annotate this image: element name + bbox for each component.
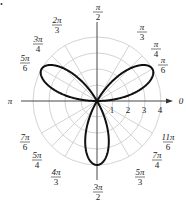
angle-label: 4π3 — [51, 167, 61, 187]
angle-label: π4 — [151, 39, 161, 59]
svg-text:3: 3 — [55, 25, 60, 35]
svg-text:4: 4 — [155, 160, 160, 170]
angle-label: 5π4 — [32, 150, 42, 170]
svg-text:3π: 3π — [32, 34, 43, 44]
svg-text:6: 6 — [161, 65, 166, 75]
svg-text:6: 6 — [23, 63, 28, 73]
svg-text:6: 6 — [23, 142, 28, 152]
radial-tick-label: 1 — [110, 105, 115, 115]
svg-text:0: 0 — [179, 96, 184, 106]
svg-text:4: 4 — [36, 44, 41, 54]
svg-text:3: 3 — [138, 177, 143, 187]
svg-text:3: 3 — [140, 32, 145, 42]
radial-tick-label: 2 — [126, 105, 131, 115]
angle-label: π3 — [137, 22, 147, 42]
svg-text:5π: 5π — [20, 53, 30, 63]
svg-text:2: 2 — [96, 12, 101, 22]
svg-text:π: π — [154, 39, 159, 49]
angle-label: 7π6 — [20, 132, 30, 152]
angle-label: π2 — [93, 2, 103, 22]
svg-text:π: π — [161, 55, 166, 65]
angle-label: 0 — [179, 96, 184, 106]
radial-tick-label: 4 — [158, 105, 163, 115]
svg-text:2π: 2π — [52, 15, 62, 25]
angle-label: 11π6 — [162, 132, 175, 152]
svg-text:3: 3 — [54, 177, 59, 187]
radial-tick-label: 3 — [142, 105, 147, 115]
angle-label: 3π2 — [92, 182, 103, 202]
svg-text:3π: 3π — [92, 182, 103, 192]
svg-text:11π: 11π — [162, 132, 175, 142]
svg-text:4: 4 — [154, 49, 159, 59]
svg-text:7π: 7π — [152, 150, 162, 160]
angle-label: 3π4 — [32, 34, 43, 54]
angle-label: π6 — [158, 55, 168, 75]
bullet-dot — [1, 3, 3, 5]
svg-text:7π: 7π — [20, 132, 30, 142]
svg-text:6: 6 — [166, 142, 171, 152]
polar-plot: 1234 0π6π4π3π22π33π45π6π7π65π44π33π25π37… — [0, 0, 186, 207]
svg-text:2: 2 — [96, 192, 101, 202]
svg-text:4: 4 — [35, 160, 40, 170]
svg-text:4π: 4π — [51, 167, 61, 177]
angle-label: π — [8, 96, 13, 106]
angle-label: 7π4 — [152, 150, 162, 170]
angle-label: 2π3 — [52, 15, 62, 35]
svg-text:5π: 5π — [135, 167, 145, 177]
svg-text:π: π — [96, 2, 101, 12]
axis-arrow-icon — [166, 99, 173, 104]
angle-label: 5π3 — [135, 167, 145, 187]
angle-label: 5π6 — [20, 53, 30, 73]
svg-text:5π: 5π — [32, 150, 42, 160]
svg-text:π: π — [140, 22, 145, 32]
svg-text:π: π — [8, 96, 13, 106]
